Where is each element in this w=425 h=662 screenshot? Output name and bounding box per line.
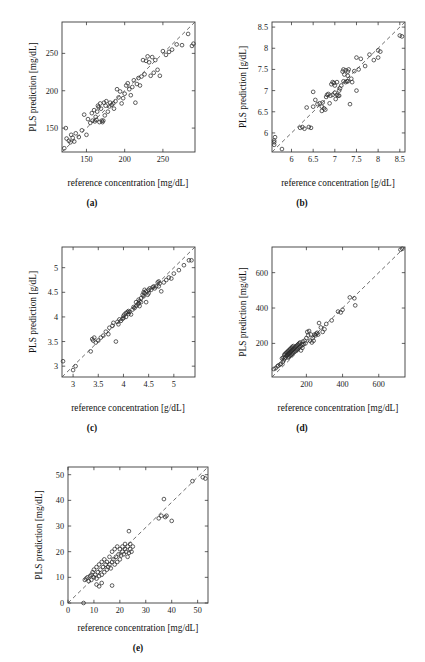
x-tick-label-e: 30	[142, 606, 150, 615]
data-point	[131, 545, 135, 549]
data-point	[118, 558, 122, 562]
data-point	[100, 581, 104, 585]
figure-root: 150200250150200250reference concentratio…	[0, 0, 425, 662]
x-tick-label-e: 10	[90, 606, 98, 615]
panel-caption-e: (e)	[118, 643, 158, 653]
y-tick-label-e: 20	[56, 548, 64, 557]
data-points-e	[82, 475, 208, 604]
x-tick-label-e: 0	[66, 606, 70, 615]
data-point	[108, 555, 112, 559]
x-tick-label-e: 50	[194, 606, 202, 615]
y-axis-title-e: PLS prediction [mg/dL]	[34, 490, 44, 579]
x-tick-label-e: 40	[168, 606, 176, 615]
y-tick-label-e: 10	[56, 573, 64, 582]
data-point	[162, 497, 166, 501]
y-tick-label-e: 0	[60, 599, 64, 608]
x-tick-label-e: 20	[116, 606, 124, 615]
y-tick-label-e: 40	[56, 496, 64, 505]
x-axis-title-e: reference concentration [mg/dL]	[78, 623, 199, 633]
y-tick-label-e: 50	[56, 471, 64, 480]
data-point	[159, 514, 163, 518]
y-tick-label-e: 30	[56, 522, 64, 531]
data-point	[126, 555, 130, 559]
data-point	[110, 584, 114, 588]
data-point	[127, 529, 131, 533]
data-point	[170, 519, 174, 523]
identity-line-e	[68, 467, 208, 603]
